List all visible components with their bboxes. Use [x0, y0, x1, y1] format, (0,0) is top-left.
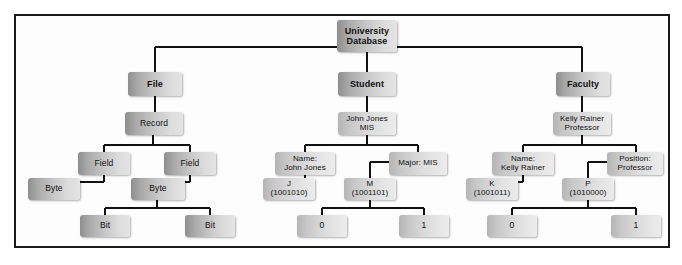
node-student-record[interactable]: John Jones MIS	[338, 112, 396, 135]
node-label-line2: Kelly Rainer	[501, 164, 545, 173]
node-label-line2: (1001101)	[352, 189, 389, 198]
node-label: Major: MIS	[389, 159, 447, 168]
node-label-line2: (1001010)	[270, 189, 307, 198]
node-student-field-major[interactable]: Major: MIS	[389, 152, 447, 175]
node-label-line2: Professor	[618, 164, 653, 173]
node-faculty-bit-one[interactable]: 1	[611, 215, 661, 237]
node-label: Faculty	[556, 79, 610, 89]
node-label: Byte	[131, 184, 185, 194]
node-label: Student	[338, 79, 396, 89]
node-university-database[interactable]: University Database	[337, 20, 397, 52]
node-bit-right[interactable]: Bit	[185, 215, 235, 237]
node-field-right[interactable]: Field	[164, 152, 216, 175]
node-file[interactable]: File	[128, 72, 182, 96]
node-bit-left[interactable]: Bit	[80, 215, 130, 237]
node-label: Bit	[80, 221, 130, 231]
node-label: Record	[125, 119, 183, 129]
node-byte-right[interactable]: Byte	[131, 178, 185, 200]
node-label-line2: (1001011)	[474, 189, 511, 198]
node-faculty-field-position[interactable]: Position: Professor	[607, 152, 663, 175]
node-label: Byte	[28, 184, 80, 194]
diagram-figure: University Database File Student Faculty…	[0, 0, 682, 265]
node-student-byte-j[interactable]: J (1001010)	[263, 178, 315, 200]
node-label-line2: Professor	[560, 124, 604, 133]
node-student[interactable]: Student	[338, 72, 396, 96]
node-student-byte-m[interactable]: M (1001101)	[344, 178, 396, 200]
node-label-line1: University	[345, 26, 389, 36]
node-label: 1	[399, 221, 449, 231]
node-student-bit-zero[interactable]: 0	[297, 215, 347, 237]
node-faculty[interactable]: Faculty	[556, 72, 610, 96]
node-label: Bit	[185, 221, 235, 231]
node-faculty-bit-zero[interactable]: 0	[487, 215, 537, 237]
node-student-field-name[interactable]: Name: John Jones	[275, 152, 335, 175]
node-faculty-record[interactable]: Kelly Rainer Professor	[553, 112, 611, 135]
node-label-line2: MIS	[346, 124, 388, 133]
node-label-line2: Database	[345, 36, 389, 46]
node-label: 0	[297, 221, 347, 231]
node-byte-left[interactable]: Byte	[28, 178, 80, 200]
node-label: 1	[611, 221, 661, 231]
node-label: Field	[164, 159, 216, 169]
node-label: 0	[487, 221, 537, 231]
node-faculty-byte-k[interactable]: K (1001011)	[466, 178, 518, 200]
node-record[interactable]: Record	[125, 112, 183, 135]
node-student-bit-one[interactable]: 1	[399, 215, 449, 237]
node-label: Field	[78, 159, 130, 169]
node-faculty-field-name[interactable]: Name: Kelly Rainer	[492, 152, 554, 175]
node-faculty-byte-p[interactable]: P (1010000)	[562, 178, 614, 200]
node-label: File	[128, 79, 182, 89]
node-label-line2: John Jones	[284, 164, 326, 173]
node-label-line2: (1010000)	[569, 189, 606, 198]
node-field-left[interactable]: Field	[78, 152, 130, 175]
